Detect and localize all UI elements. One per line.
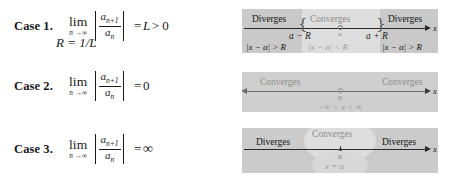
case-2-limit-operator: lim n →∞ [69, 75, 88, 97]
condition-diverges-left: |x − a| > R [246, 42, 286, 52]
case-1-relation: > 0 [150, 18, 170, 33]
figure-root: Case 1. lim n →∞ an+1 an =L> 0 R = 1/L C… [0, 0, 452, 180]
point-condition: x = a [325, 161, 344, 171]
case-1-fraction: an+1 an [99, 11, 121, 41]
case-3-rhs: =∞ [133, 141, 153, 157]
case-2-label: Case 2. [14, 79, 53, 94]
case-3-lim-subscript: n →∞ [69, 153, 87, 160]
case2-number-line-diagram: x Converges Converges a −∞ < x < ∞ [242, 72, 438, 112]
case-3-label: Case 3. [14, 142, 53, 157]
case-2-result: 0 [143, 78, 150, 93]
case-3-abs-ratio: an+1 an [93, 134, 127, 164]
x-axis-arrowhead [425, 25, 431, 31]
case-1-denominator: an [99, 26, 121, 42]
label-diverges-right: Diverges [382, 137, 416, 147]
case-2-lim-subscript: n →∞ [69, 90, 87, 97]
case-1-label: Case 1. [14, 19, 53, 34]
case-3-denominator: an [99, 149, 121, 165]
case-2-numerator: an+1 [99, 71, 121, 86]
case-1-equals: = [133, 18, 143, 33]
case1-number-line-diagram: x { } Diverges Converges Diverges a − R … [242, 9, 438, 53]
case-1-numerator: an+1 [99, 11, 121, 26]
case-2-row: Case 2. lim n →∞ an+1 an =0 [14, 71, 149, 101]
case-3-equals: = [133, 141, 143, 156]
case-2-fraction: an+1 an [99, 71, 121, 101]
case-3-limit-operator: lim n →∞ [69, 138, 88, 160]
x-axis-arrowhead [425, 146, 431, 152]
x-axis [244, 91, 426, 92]
case-1-limit-operator: lim n →∞ [69, 15, 88, 37]
interval-condition: −∞ < x < ∞ [318, 102, 362, 112]
center-label-a: a [338, 152, 342, 161]
x-axis-label: x [433, 86, 437, 96]
abs-bar-right [123, 71, 124, 101]
case-2-denominator: an [99, 86, 121, 102]
label-diverges-left: Diverges [256, 137, 290, 147]
abs-bar-left [95, 134, 96, 164]
right-endpoint-label: a + R [366, 31, 388, 41]
abs-bar-right [123, 134, 124, 164]
case-3-result: ∞ [143, 141, 153, 156]
case-2-lim-word: lim [69, 75, 88, 89]
label-diverges-left: Diverges [252, 14, 286, 24]
case-1-lim-word: lim [69, 15, 88, 29]
center-label-a: a [338, 30, 342, 38]
abs-bar-left [95, 71, 96, 101]
label-diverges-right: Diverges [388, 14, 422, 24]
label-converges-middle: Converges [310, 14, 350, 24]
case-1-abs-ratio: an+1 an [93, 11, 127, 41]
case-2-equals: = [133, 78, 143, 93]
x-axis [244, 28, 426, 29]
x-axis-arrowhead-left [242, 88, 247, 94]
label-converges-right: Converges [382, 77, 422, 87]
case-1-rhs: =L> 0 [133, 18, 171, 34]
abs-bar-right [123, 11, 124, 41]
label-converges-middle: Converges [312, 129, 352, 139]
label-converges-left: Converges [260, 77, 300, 87]
case-3-lim-word: lim [69, 138, 88, 152]
case-3-numerator: an+1 [99, 134, 121, 149]
case-3-row: Case 3. lim n →∞ an+1 an =∞ [14, 134, 153, 164]
case-3-fraction: an+1 an [99, 134, 121, 164]
case-1-radius-formula: R = 1/L [56, 35, 97, 51]
case-2-abs-ratio: an+1 an [93, 71, 127, 101]
x-axis [244, 149, 426, 150]
x-axis-arrowhead [425, 88, 431, 94]
case-2-rhs: =0 [133, 78, 150, 94]
condition-diverges-right: |x − a| > R [382, 42, 422, 52]
center-point-dot [339, 148, 342, 151]
center-label-a: a [338, 93, 342, 102]
x-axis-label: x [433, 144, 437, 154]
condition-converges-middle: |x − a| < R [308, 42, 348, 52]
case3-number-line-diagram: x Converges Diverges Diverges a x = a [242, 128, 438, 173]
x-axis-label: x [433, 23, 437, 33]
left-endpoint-label: a − R [289, 31, 311, 41]
